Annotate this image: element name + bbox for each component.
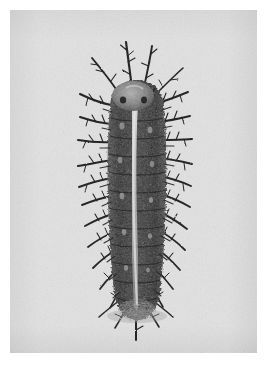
head-eye-right (141, 97, 147, 104)
photograph (10, 10, 257, 353)
dorsal-stripe (133, 104, 137, 306)
head-capsule (112, 81, 154, 111)
head-eye-left (120, 96, 126, 103)
head-label: head capsule (0, 0, 1, 1)
spines-label: branched spines (scoli) (0, 0, 1, 1)
photo-caption (0, 0, 1, 1)
subject-description: Dorsal view of a dark, densely spined ca… (0, 0, 1, 1)
screenshot-root: Dorsal view of a dark, densely spined ca… (0, 0, 269, 365)
caterpillar-photo-canvas (10, 10, 257, 353)
subject-name: spiny caterpillar (0, 0, 1, 1)
drop-shadow (107, 309, 167, 323)
dorsal-stripe-label: pale dorsal stripe (0, 0, 1, 1)
